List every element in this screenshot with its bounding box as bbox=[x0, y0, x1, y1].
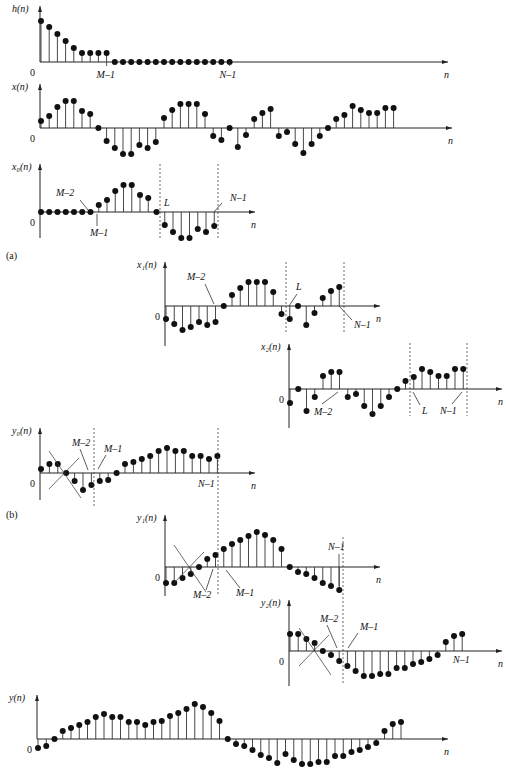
origin-label: 0 bbox=[155, 311, 160, 322]
sample-point bbox=[118, 714, 124, 720]
origin-label: 0 bbox=[30, 67, 35, 78]
annotation-label: M–2 bbox=[71, 437, 90, 448]
sample-point bbox=[307, 761, 313, 767]
sample-point bbox=[203, 229, 209, 235]
x-axis-label: n bbox=[251, 480, 256, 491]
sample-point bbox=[333, 116, 339, 122]
sample-point bbox=[309, 141, 315, 147]
sample-point bbox=[196, 319, 202, 325]
sample-point bbox=[391, 105, 397, 111]
y-axis-label: x₂(n) bbox=[260, 341, 281, 353]
sample-point bbox=[295, 569, 301, 575]
leader-line bbox=[413, 392, 420, 405]
x-axis-arrow-icon bbox=[446, 126, 452, 130]
annotation-label: L bbox=[295, 281, 302, 292]
sample-point bbox=[229, 292, 235, 298]
sample-point bbox=[357, 747, 363, 753]
overlap-save-figure: (a) (b) h(n)n0x(n)n0x₀(n)n0x₁(n)n0x₂(n)n… bbox=[0, 0, 506, 782]
sample-point bbox=[163, 580, 169, 586]
sample-point bbox=[336, 284, 342, 290]
x-axis-arrow-icon bbox=[496, 649, 502, 653]
annotation-label: M–2 bbox=[313, 406, 332, 417]
sample-point bbox=[287, 316, 293, 322]
sample-point bbox=[60, 728, 66, 734]
x-axis-arrow-icon bbox=[442, 60, 448, 64]
sample-point bbox=[303, 571, 309, 577]
annotation-label: N–1 bbox=[327, 541, 345, 552]
sample-point bbox=[71, 45, 77, 51]
sample-point bbox=[187, 235, 193, 241]
sample-point bbox=[459, 631, 465, 637]
sample-point bbox=[353, 668, 359, 674]
sample-point bbox=[109, 714, 115, 720]
sample-point bbox=[104, 197, 110, 203]
annotation-label: N–1 bbox=[439, 405, 457, 416]
sample-point bbox=[385, 671, 391, 677]
sample-point bbox=[54, 104, 60, 110]
sample-point bbox=[63, 98, 69, 104]
leader-line bbox=[206, 569, 213, 590]
sample-point bbox=[345, 394, 351, 400]
sample-point bbox=[221, 546, 227, 552]
leader-line bbox=[80, 449, 88, 470]
sample-point bbox=[101, 711, 107, 717]
sample-point bbox=[328, 369, 334, 375]
origin-label: 0 bbox=[279, 656, 284, 667]
sample-point bbox=[72, 478, 78, 484]
sample-point bbox=[320, 648, 326, 654]
sample-point bbox=[93, 714, 99, 720]
y-axis-arrow-icon bbox=[163, 262, 167, 268]
y-axis-arrow-icon bbox=[287, 344, 291, 350]
sample-point bbox=[194, 101, 200, 107]
sample-point bbox=[303, 322, 309, 328]
sample-point bbox=[169, 59, 175, 65]
sample-point bbox=[312, 575, 318, 581]
sample-point bbox=[114, 470, 120, 476]
sample-point bbox=[161, 115, 167, 121]
sample-point bbox=[316, 759, 322, 765]
sample-point bbox=[292, 141, 298, 147]
y-axis-label: h(n) bbox=[12, 3, 29, 15]
sample-point bbox=[300, 150, 306, 156]
sample-point bbox=[233, 741, 239, 747]
sample-point bbox=[295, 631, 301, 637]
sample-point bbox=[172, 448, 178, 454]
sample-point bbox=[79, 209, 85, 215]
sample-point bbox=[403, 378, 409, 384]
sample-point bbox=[304, 408, 310, 414]
sample-point bbox=[156, 448, 162, 454]
leader-line bbox=[452, 392, 462, 404]
sample-point bbox=[169, 107, 175, 113]
leader-line bbox=[339, 306, 352, 320]
annotation-label: M–1 bbox=[359, 621, 378, 632]
sample-point bbox=[370, 411, 376, 417]
sample-point bbox=[279, 311, 285, 317]
sample-point bbox=[46, 209, 52, 215]
sample-point bbox=[378, 403, 384, 409]
sample-point bbox=[213, 319, 219, 325]
sample-point bbox=[312, 640, 318, 646]
plot-x2: x₂(n)n0 bbox=[260, 341, 503, 428]
y-axis-label: y(n) bbox=[8, 692, 26, 704]
sample-point bbox=[122, 461, 128, 467]
y-axis-label: x₀(n) bbox=[11, 161, 32, 173]
sample-point bbox=[427, 369, 433, 375]
sample-point bbox=[259, 110, 265, 116]
y-axis-arrow-icon bbox=[38, 6, 42, 12]
sample-point bbox=[204, 322, 210, 328]
y-axis-arrow-icon bbox=[38, 428, 42, 434]
x-axis-label: n bbox=[498, 658, 503, 669]
sample-point bbox=[419, 366, 425, 372]
sample-point bbox=[128, 59, 134, 65]
sample-point bbox=[266, 755, 272, 761]
sample-point bbox=[164, 445, 170, 451]
sample-point bbox=[218, 59, 224, 65]
sample-point bbox=[112, 145, 118, 151]
sample-point bbox=[195, 226, 201, 232]
origin-label: 0 bbox=[27, 744, 32, 755]
sample-point bbox=[175, 710, 181, 716]
sample-point bbox=[43, 743, 49, 749]
sample-point bbox=[418, 659, 424, 665]
sample-point bbox=[390, 721, 396, 727]
y-axis-label: y₂(n) bbox=[260, 597, 281, 609]
